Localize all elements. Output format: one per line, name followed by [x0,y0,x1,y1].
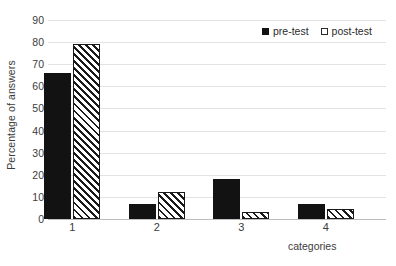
y-axis-tick-label: 90 [32,15,44,26]
x-axis-tick-label: 4 [323,222,329,233]
y-axis-title: Percentage of answers [0,0,22,230]
bar-pre-test-category-1 [44,73,71,219]
y-axis-tick-label: 30 [32,147,44,158]
y-axis-tick-label: 60 [32,81,44,92]
bar-chart: Percentage of answers 010203040506070809… [0,0,396,266]
y-axis-tick-label: 10 [32,192,44,203]
plot-area [48,20,386,219]
y-axis-tick-label: 20 [32,170,44,181]
legend-entry-post-test: post-test [321,26,372,37]
legend-label: pre-test [273,26,309,37]
y-axis-tick-labels: 0102030405060708090 [20,20,44,219]
x-axis-title: categories [288,240,336,252]
y-axis-tick-label: 70 [32,59,44,70]
legend-entry-pre-test: pre-test [262,26,309,37]
bar-post-test-category-1 [73,44,100,219]
y-axis-tick-label: 0 [38,214,44,225]
bar-pre-test-category-2 [129,204,156,219]
y-axis-title-text: Percentage of answers [5,60,17,170]
bar-post-test-category-2 [158,192,185,219]
bar-pre-test-category-4 [298,204,325,219]
bar-post-test-category-4 [327,209,354,219]
axis-baseline [48,219,386,220]
x-axis-tick-labels: 1234 [48,222,386,240]
bar-pre-test-category-3 [213,179,240,219]
y-axis-tick-label: 40 [32,125,44,136]
legend-label: post-test [332,26,372,37]
bar-post-test-category-3 [242,212,269,219]
filled-square-icon [262,28,269,35]
bars-layer [48,20,386,219]
y-axis-tick-label: 80 [32,37,44,48]
chart-legend: pre-testpost-test [262,26,372,37]
y-axis-tick-label: 50 [32,103,44,114]
x-axis-tick-label: 2 [154,222,160,233]
x-axis-tick-label: 1 [69,222,75,233]
x-axis-tick-label: 3 [238,222,244,233]
outline-square-icon [321,28,328,35]
